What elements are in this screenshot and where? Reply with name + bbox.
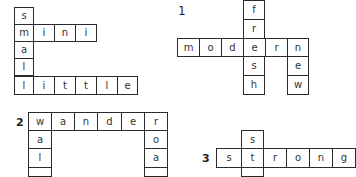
grid-cell[interactable]: a	[144, 148, 168, 168]
grid-cell[interactable]: s	[14, 7, 34, 25]
grid-cell[interactable]: t	[75, 76, 97, 95]
grid-cell[interactable]: f	[243, 0, 265, 20]
clue-number: 1	[178, 4, 186, 18]
grid-cell[interactable]: t	[54, 76, 76, 95]
grid-cell[interactable]: i	[33, 76, 55, 95]
grid-cell[interactable]: l	[96, 76, 118, 95]
grid-cell[interactable]: s	[243, 56, 265, 76]
grid-cell[interactable]	[28, 167, 52, 177]
grid-cell[interactable]: o	[144, 130, 168, 149]
grid-cell[interactable]: e	[121, 112, 145, 131]
grid-cell[interactable]: h	[243, 75, 265, 95]
grid-cell[interactable]: n	[74, 112, 98, 131]
grid-cell[interactable]: m	[177, 38, 200, 57]
grid-cell[interactable]	[144, 167, 168, 177]
grid-cell[interactable]: i	[33, 24, 55, 42]
grid-cell[interactable]: i	[75, 24, 97, 42]
grid-cell[interactable]: s	[216, 148, 242, 168]
grid-cell[interactable]: t	[241, 148, 264, 168]
grid-cell[interactable]: s	[241, 130, 264, 149]
clue-number: 2	[16, 116, 24, 129]
grid-cell[interactable]: r	[144, 112, 168, 131]
grid-cell[interactable]: a	[14, 41, 34, 59]
grid-cell[interactable]: a	[51, 112, 75, 131]
clue-number: 3	[202, 152, 210, 165]
grid-cell[interactable]: d	[97, 112, 122, 131]
grid-cell[interactable]: l	[14, 76, 34, 95]
grid-cell[interactable]: r	[243, 19, 265, 39]
grid-cell[interactable]: n	[309, 148, 333, 168]
grid-cell[interactable]: n	[287, 38, 309, 57]
grid-cell[interactable]: g	[332, 148, 356, 168]
grid-cell[interactable]: m	[14, 24, 34, 42]
grid-cell[interactable]: w	[28, 112, 52, 131]
grid-cell[interactable]: r	[263, 148, 287, 168]
grid-cell[interactable]: d	[221, 38, 244, 57]
grid-cell[interactable]: o	[286, 148, 310, 168]
grid-cell[interactable]	[241, 167, 264, 177]
grid-cell[interactable]: e	[287, 56, 309, 76]
grid-cell[interactable]: w	[287, 75, 309, 95]
grid-cell[interactable]: r	[265, 38, 288, 57]
grid-cell[interactable]: e	[117, 76, 138, 95]
grid-cell[interactable]: n	[54, 24, 76, 42]
grid-cell[interactable]: o	[199, 38, 222, 57]
grid-cell[interactable]: l	[28, 148, 52, 168]
grid-cell[interactable]: l	[14, 58, 34, 76]
grid-cell[interactable]: a	[28, 130, 52, 149]
grid-cell[interactable]: e	[243, 38, 266, 57]
